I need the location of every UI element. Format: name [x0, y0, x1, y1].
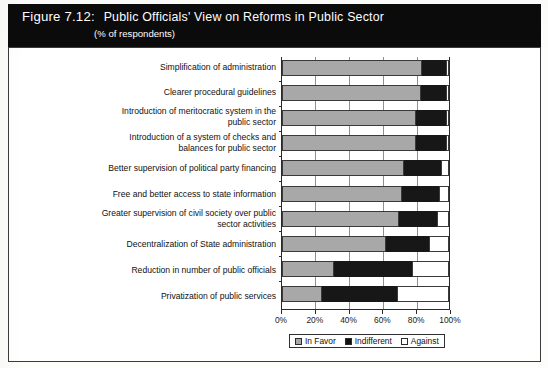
category-label-text: Introduction of a system of checks and: [60, 132, 276, 143]
category-label-text: public sector: [60, 117, 276, 128]
bar-row: [282, 211, 449, 227]
bar-segment-against: [446, 85, 449, 101]
x-tick: [382, 310, 383, 314]
bar-segment-favor: [282, 236, 386, 252]
bar-segment-indiff: [404, 160, 441, 176]
y-tick: [279, 231, 282, 232]
bar-segment-against: [397, 286, 449, 302]
bar-segment-indiff: [386, 236, 429, 252]
bar-segment-against: [437, 211, 449, 227]
x-tick: [281, 310, 282, 314]
bar-row: [282, 286, 449, 302]
category-label-8: Reduction in number of public officials: [60, 265, 276, 276]
bar-row: [282, 85, 449, 101]
category-label-text: Simplification of administration: [160, 62, 276, 72]
category-label-5: Free and better access to state informat…: [60, 189, 276, 200]
bar-segment-against: [446, 135, 449, 151]
bar-segment-indiff: [322, 286, 397, 302]
category-label-text: Clearer procedural guidelines: [164, 87, 276, 97]
category-label-text: Reduction in number of public officials: [131, 265, 276, 275]
x-tick: [349, 310, 350, 314]
legend-swatch-indifferent-icon: [345, 338, 352, 345]
legend-item-in-favor: In Favor: [295, 336, 336, 346]
bar-segment-favor: [282, 286, 322, 302]
stacked-bar-chart: Simplification of administration Clearer…: [0, 0, 548, 368]
bar-row: [282, 261, 449, 277]
category-label-text: Better supervision of political party fi…: [108, 163, 276, 173]
y-tick: [279, 131, 282, 132]
bar-segment-against: [412, 261, 449, 277]
x-tick: [450, 310, 451, 314]
category-axis-labels: Simplification of administration Clearer…: [60, 55, 276, 313]
bar-segment-indiff: [422, 60, 445, 76]
legend-label: Indifferent: [355, 336, 392, 346]
bar-row: [282, 135, 449, 151]
plot-area: [281, 57, 450, 310]
category-label-text: sector activities: [60, 219, 276, 230]
bar-segment-indiff: [399, 211, 437, 227]
bar-segment-indiff: [402, 186, 439, 202]
bar-segment-favor: [282, 60, 422, 76]
bar-row: [282, 186, 449, 202]
y-tick: [279, 156, 282, 157]
bar-segment-favor: [282, 186, 402, 202]
bar-segment-against: [446, 110, 449, 126]
legend-item-against: Against: [401, 336, 439, 346]
category-label-6: Greater supervision of civil society ove…: [60, 208, 276, 229]
bar-row: [282, 60, 449, 76]
category-label-text: Free and better access to state informat…: [113, 189, 276, 199]
category-label-2: Introduction of meritocratic system in t…: [60, 106, 276, 127]
category-label-3: Introduction of a system of checks and b…: [60, 132, 276, 153]
bar-row: [282, 236, 449, 252]
category-label-4: Better supervision of political party fi…: [60, 163, 276, 174]
legend-item-indifferent: Indifferent: [345, 336, 392, 346]
category-label-text: Decentralization of State administration: [126, 239, 276, 249]
bar-segment-favor: [282, 85, 421, 101]
bar-segment-favor: [282, 211, 399, 227]
bar-rows: [282, 57, 449, 309]
bar-segment-favor: [282, 261, 334, 277]
bar-segment-against: [441, 160, 449, 176]
bar-segment-against: [439, 186, 449, 202]
bar-row: [282, 160, 449, 176]
category-label-text: balances for public sector: [60, 143, 276, 154]
category-label-0: Simplification of administration: [60, 62, 276, 73]
bar-segment-indiff: [334, 261, 412, 277]
bar-segment-against: [446, 60, 449, 76]
y-tick: [279, 181, 282, 182]
y-tick: [279, 106, 282, 107]
x-tick: [416, 310, 417, 314]
legend-swatch-against-icon: [401, 338, 408, 345]
bar-segment-favor: [282, 110, 416, 126]
y-tick: [279, 256, 282, 257]
y-tick: [279, 281, 282, 282]
category-label-text: Introduction of meritocratic system in t…: [60, 106, 276, 117]
bar-segment-indiff: [421, 85, 446, 101]
bar-segment-against: [429, 236, 449, 252]
x-tick: [315, 310, 316, 314]
bar-row: [282, 110, 449, 126]
category-label-9: Privatization of public services: [60, 291, 276, 302]
legend-swatch-favor-icon: [295, 338, 302, 345]
legend-label: Against: [411, 336, 439, 346]
figure-page: Figure 7.12: Public Officials' View on R…: [0, 0, 548, 368]
legend-label: In Favor: [305, 336, 336, 346]
y-tick: [279, 81, 282, 82]
x-tick-label: 100%: [430, 315, 470, 325]
bar-segment-favor: [282, 160, 404, 176]
chart-legend: In Favor Indifferent Against: [289, 334, 445, 348]
bar-segment-favor: [282, 135, 416, 151]
category-label-7: Decentralization of State administration: [60, 239, 276, 250]
y-tick: [279, 206, 282, 207]
category-label-text: Greater supervision of civil society ove…: [60, 208, 276, 219]
category-label-text: Privatization of public services: [161, 291, 276, 301]
bar-segment-indiff: [416, 110, 446, 126]
category-label-1: Clearer procedural guidelines: [60, 87, 276, 98]
bar-segment-indiff: [416, 135, 446, 151]
